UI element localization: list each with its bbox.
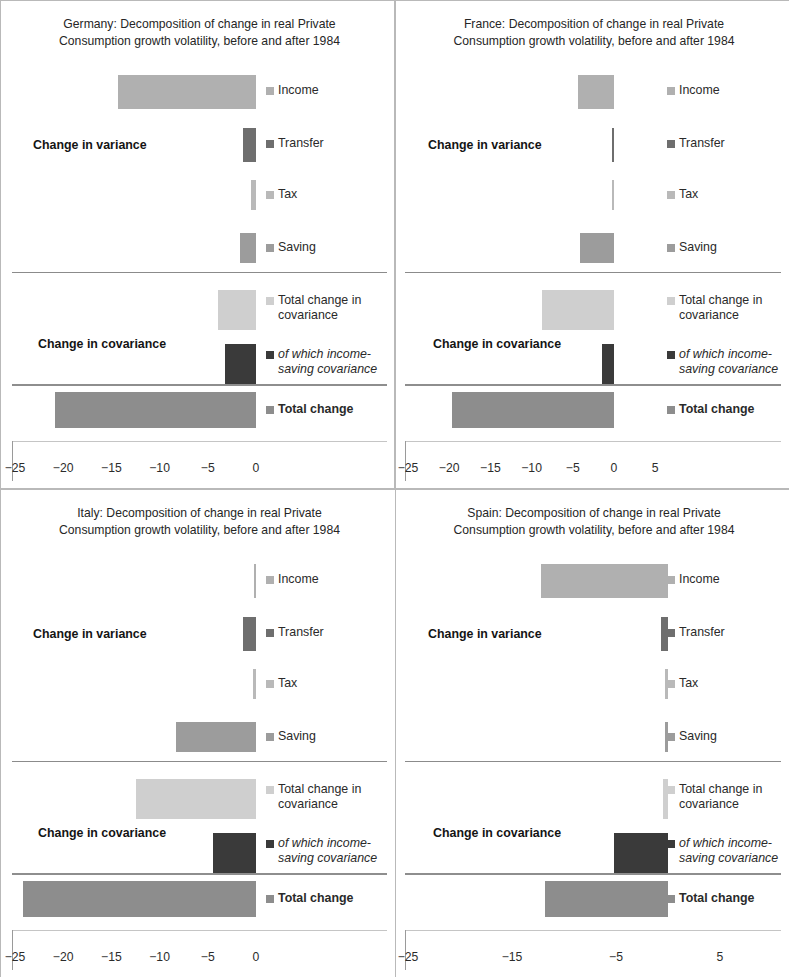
panel-border-top [395,0,789,1]
legend-item-transfer[interactable]: Transfer [266,136,324,151]
legend-label: Tax [679,676,698,691]
legend-item-income[interactable]: Income [667,83,720,98]
legend-item-saving[interactable]: Saving [266,240,316,255]
bar-total_change[interactable] [452,392,614,428]
legend-item-saving[interactable]: Saving [667,729,717,744]
bar-transfer[interactable] [612,128,614,162]
legend-item-total_change[interactable]: Total change [266,891,354,906]
legend-item-total_covariance[interactable]: Total change in covariance [266,293,361,323]
legend-item-total_covariance[interactable]: Total change in covariance [667,293,762,323]
legend-item-transfer[interactable]: Transfer [266,625,324,640]
bar-total_covariance[interactable] [218,290,256,330]
bar-transfer[interactable] [243,128,256,162]
legend-label: Saving [278,729,316,744]
axis-tick-label: 5 [717,950,724,964]
bar-saving[interactable] [580,233,614,263]
legend-swatch-icon [667,895,675,903]
bar-income[interactable] [118,75,256,109]
panel-border-top [0,489,395,490]
legend-label: of which income- saving covariance [679,347,778,377]
legend-swatch-icon [667,680,675,688]
bar-total_change[interactable] [23,881,256,917]
legend-swatch-icon [667,87,675,95]
legend-item-income_saving_covariance[interactable]: of which income- saving covariance [667,836,778,866]
legend-item-transfer[interactable]: Transfer [667,136,725,151]
axis-tick-label: −10 [149,950,170,964]
legend-item-tax[interactable]: Tax [266,187,297,202]
legend-item-income_saving_covariance[interactable]: of which income- saving covariance [667,347,778,377]
group-label-change-in-variance: Change in variance [428,138,542,152]
plot-area-france: IncomeTransferTaxSavingTotal change in c… [395,54,789,489]
legend-item-transfer[interactable]: Transfer [667,625,725,640]
bar-income[interactable] [254,564,256,598]
legend-label: Income [278,572,319,587]
bar-income_saving_covariance[interactable] [602,344,614,384]
legend-label: Transfer [278,136,324,151]
legend-item-tax[interactable]: Tax [266,676,297,691]
legend-label: Total change [679,891,755,906]
axis-tick-label: −5 [609,950,623,964]
legend-label: of which income- saving covariance [679,836,778,866]
panel-spain: Spain: Decomposition of change in real P… [395,489,789,977]
legend-item-total_covariance[interactable]: Total change in covariance [266,782,361,812]
legend-item-total_change[interactable]: Total change [667,402,755,417]
bar-total_change[interactable] [545,881,668,917]
figure-grid: Germany: Decomposition of change in real… [0,0,789,977]
bar-income_saving_covariance[interactable] [213,833,256,873]
bar-saving[interactable] [176,722,256,752]
plot-area-spain: IncomeTransferTaxSavingTotal change in c… [395,543,789,977]
legend-swatch-icon [266,244,274,252]
group-label-change-in-covariance: Change in covariance [38,826,166,840]
group-separator-1 [12,873,387,875]
legend-item-tax[interactable]: Tax [667,676,698,691]
bar-tax[interactable] [612,180,614,210]
legend-item-tax[interactable]: Tax [667,187,698,202]
group-separator-2 [12,930,387,931]
axis-tick-label: −20 [439,461,460,475]
group-separator-0 [12,761,387,762]
bar-total_covariance[interactable] [136,779,257,819]
legend-item-total_covariance[interactable]: Total change in covariance [667,782,762,812]
bar-income_saving_covariance[interactable] [614,833,668,873]
bar-tax[interactable] [251,180,256,210]
legend-item-income[interactable]: Income [266,572,319,587]
axis-tick-label: −15 [480,461,501,475]
legend-label: Total change [278,402,354,417]
legend-item-income_saving_covariance[interactable]: of which income- saving covariance [266,836,377,866]
bar-income[interactable] [578,75,614,109]
legend-swatch-icon [266,680,274,688]
axis-tick-label: −25 [5,461,26,475]
axis-tick-label: −5 [201,461,215,475]
legend-item-total_change[interactable]: Total change [266,402,354,417]
group-label-change-in-covariance: Change in covariance [38,337,166,351]
legend-swatch-icon [266,297,274,305]
legend-item-income[interactable]: Income [266,83,319,98]
bar-total_change[interactable] [55,392,256,428]
legend-label: Total change in covariance [679,293,762,323]
legend-swatch-icon [266,840,274,848]
legend-swatch-icon [667,629,675,637]
bar-saving[interactable] [240,233,256,263]
legend-label: Income [278,83,319,98]
legend-item-income_saving_covariance[interactable]: of which income- saving covariance [266,347,377,377]
bar-income[interactable] [541,564,668,598]
page-title: Italy: Decomposition of change in real P… [18,505,381,539]
legend-label: Saving [278,240,316,255]
panel-germany: Germany: Decomposition of change in real… [0,0,395,489]
bar-income_saving_covariance[interactable] [225,344,256,384]
bar-transfer[interactable] [243,617,256,651]
bar-total_covariance[interactable] [542,290,614,330]
bar-tax[interactable] [253,669,256,699]
legend-item-income[interactable]: Income [667,572,720,587]
legend-swatch-icon [667,786,675,794]
axis-tick-label: −5 [201,950,215,964]
legend-item-saving[interactable]: Saving [266,729,316,744]
group-separator-0 [12,272,387,273]
legend-item-total_change[interactable]: Total change [667,891,755,906]
page-title: Spain: Decomposition of change in real P… [413,505,775,539]
legend-label: Total change in covariance [278,782,361,812]
axis-tick-label: −20 [53,461,74,475]
legend-item-saving[interactable]: Saving [667,240,717,255]
axis-tick-label: −15 [101,461,122,475]
group-separator-0 [405,272,781,273]
